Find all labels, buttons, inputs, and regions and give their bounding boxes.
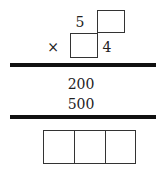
multiplicand-blank-box[interactable] (97, 10, 125, 33)
multiply-operator: × (47, 40, 59, 54)
multiplicand-digit: 5 (74, 15, 86, 29)
answer-box-ones[interactable] (105, 130, 136, 164)
partial-product-2: 500 (61, 97, 101, 111)
answer-box-tens[interactable] (74, 130, 106, 164)
product-rule (10, 63, 156, 67)
multiplier-blank-box[interactable] (70, 33, 98, 58)
answer-box-hundreds[interactable] (43, 130, 75, 164)
sum-rule (10, 115, 156, 119)
multiplier-digit: 4 (101, 40, 113, 54)
partial-product-1: 200 (61, 77, 101, 91)
